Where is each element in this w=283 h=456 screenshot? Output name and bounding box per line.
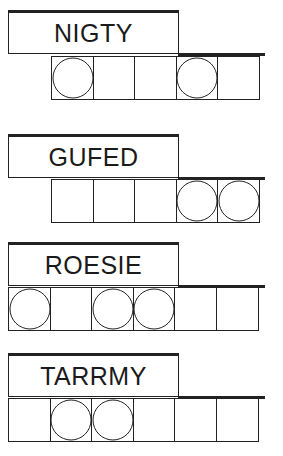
answer-cells [51, 56, 260, 100]
circle-icon [218, 181, 259, 222]
answer-cell[interactable] [216, 398, 259, 442]
scrambled-word-box: NIGTY [8, 10, 179, 54]
answer-cell-circled[interactable] [50, 398, 93, 442]
answer-cell-circled[interactable] [176, 56, 219, 100]
scrambled-word: ROESIE [45, 251, 142, 280]
answer-cells [8, 398, 259, 442]
circle-icon [92, 289, 133, 330]
answer-cell[interactable] [51, 179, 94, 223]
answer-cell[interactable] [174, 398, 217, 442]
circle-icon [51, 400, 92, 441]
circle-icon [9, 289, 50, 330]
circle-icon [134, 289, 175, 330]
scrambled-word: NIGTY [54, 19, 133, 48]
answer-cell-circled[interactable] [217, 179, 260, 223]
answer-cell[interactable] [174, 287, 217, 331]
answer-cell[interactable] [8, 398, 51, 442]
answer-cell-circled[interactable] [8, 287, 51, 331]
circle-icon [177, 58, 218, 99]
answer-cells [8, 287, 259, 331]
answer-cell[interactable] [216, 287, 259, 331]
answer-cell-circled[interactable] [91, 287, 134, 331]
answer-cell[interactable] [50, 287, 93, 331]
answer-cell[interactable] [134, 56, 177, 100]
answer-cell[interactable] [133, 398, 176, 442]
circle-icon [92, 400, 133, 441]
answer-cell-circled[interactable] [51, 56, 94, 100]
scrambled-word-box: TARRMY [8, 353, 179, 397]
answer-cell[interactable] [93, 56, 136, 100]
circle-icon [52, 58, 93, 99]
answer-cells [51, 179, 260, 223]
scrambled-word: GUFED [49, 143, 139, 172]
scrambled-word-box: GUFED [8, 134, 179, 178]
scrambled-word-box: ROESIE [8, 242, 179, 286]
answer-cell[interactable] [93, 179, 136, 223]
answer-cell-circled[interactable] [133, 287, 176, 331]
answer-cell-circled[interactable] [91, 398, 134, 442]
circle-icon [177, 181, 218, 222]
answer-cell[interactable] [134, 179, 177, 223]
answer-cell-circled[interactable] [176, 179, 219, 223]
scrambled-word: TARRMY [40, 362, 147, 391]
answer-cell[interactable] [217, 56, 260, 100]
